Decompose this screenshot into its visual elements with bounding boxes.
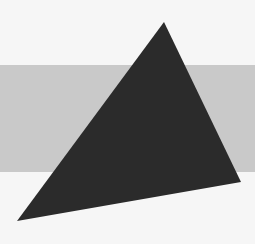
image-canvas (0, 0, 255, 244)
abstract-geometric-graphic (0, 0, 255, 244)
